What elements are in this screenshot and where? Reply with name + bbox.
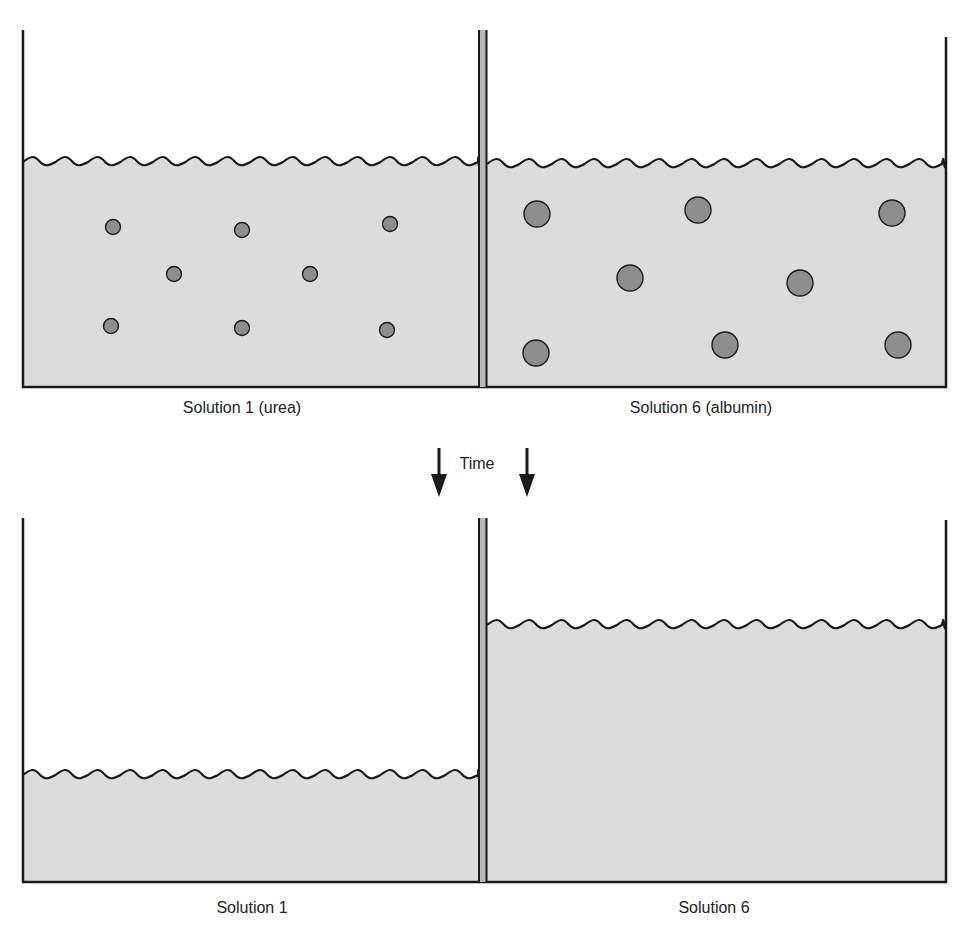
albumin-molecule: [617, 265, 643, 291]
down-arrow-icon-right: [519, 448, 535, 497]
albumin-molecule: [787, 270, 813, 296]
top-right-label: Solution 6 (albumin): [630, 399, 772, 416]
top-left-label: Solution 1 (urea): [183, 399, 301, 416]
bottom-membrane: [479, 518, 487, 882]
urea-molecule: [380, 323, 395, 338]
urea-molecule: [235, 223, 250, 238]
top-panel: Solution 1 (urea) Solution 6 (albumin): [22, 30, 947, 416]
time-indicator: Time: [431, 448, 535, 497]
top-membrane: [479, 30, 487, 387]
albumin-molecule: [879, 200, 905, 226]
top-left-solution: [23, 157, 479, 387]
albumin-molecule: [712, 332, 738, 358]
time-label: Time: [460, 455, 495, 472]
bottom-right-label: Solution 6: [678, 899, 749, 916]
urea-molecule: [383, 217, 398, 232]
bottom-left-solution: [23, 770, 479, 882]
bottom-left-label: Solution 1: [216, 899, 287, 916]
urea-molecule: [303, 267, 318, 282]
urea-molecule: [106, 220, 121, 235]
osmosis-diagram: Solution 1 (urea) Solution 6 (albumin) T…: [0, 0, 966, 925]
albumin-molecule: [523, 340, 549, 366]
bottom-right-solution: [487, 620, 946, 882]
down-arrow-icon-left: [431, 448, 447, 497]
urea-molecule: [104, 319, 119, 334]
urea-molecule: [167, 267, 182, 282]
albumin-molecule: [685, 197, 711, 223]
bottom-panel: Solution 1 Solution 6: [22, 518, 947, 916]
urea-molecule: [235, 321, 250, 336]
albumin-molecule: [524, 201, 550, 227]
albumin-molecule: [885, 332, 911, 358]
